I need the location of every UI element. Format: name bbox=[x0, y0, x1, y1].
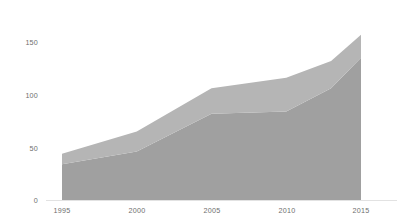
x-tick-2015: 2015 bbox=[353, 206, 370, 215]
y-tick-100: 100 bbox=[25, 91, 38, 100]
area-chart: 150 100 50 0 1995 2000 2005 2010 2015 bbox=[0, 0, 405, 224]
x-tick-2005: 2005 bbox=[204, 206, 221, 215]
y-tick-50: 50 bbox=[30, 144, 38, 153]
x-tick-1995: 1995 bbox=[54, 206, 71, 215]
x-tick-2010: 2010 bbox=[279, 206, 296, 215]
x-tick-2000: 2000 bbox=[129, 206, 146, 215]
chart-container: 150 100 50 0 1995 2000 2005 2010 2015 bbox=[0, 0, 405, 224]
y-tick-0: 0 bbox=[34, 196, 38, 205]
y-tick-150: 150 bbox=[25, 38, 38, 47]
